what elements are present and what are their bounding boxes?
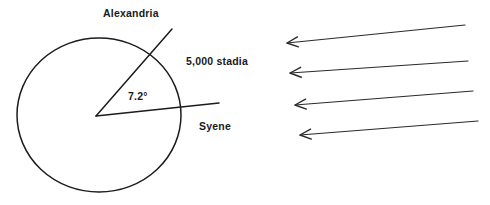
sun-ray-2 (290, 61, 468, 73)
label-distance-stadia: 5,000 stadia (186, 55, 248, 67)
label-syene: Syene (199, 120, 231, 132)
sun-ray-3 (295, 91, 473, 105)
label-angle-degrees: 7.2° (128, 90, 148, 102)
sun-ray-1 (287, 25, 465, 43)
diagram-canvas: Alexandria 5,000 stadia 7.2° Syene (0, 0, 490, 205)
label-alexandria: Alexandria (103, 7, 159, 19)
ray-to-syene (96, 103, 219, 116)
eratosthenes-diagram: Alexandria 5,000 stadia 7.2° Syene (0, 0, 490, 205)
sun-ray-4 (300, 121, 478, 135)
ray-to-alexandria (96, 29, 172, 116)
